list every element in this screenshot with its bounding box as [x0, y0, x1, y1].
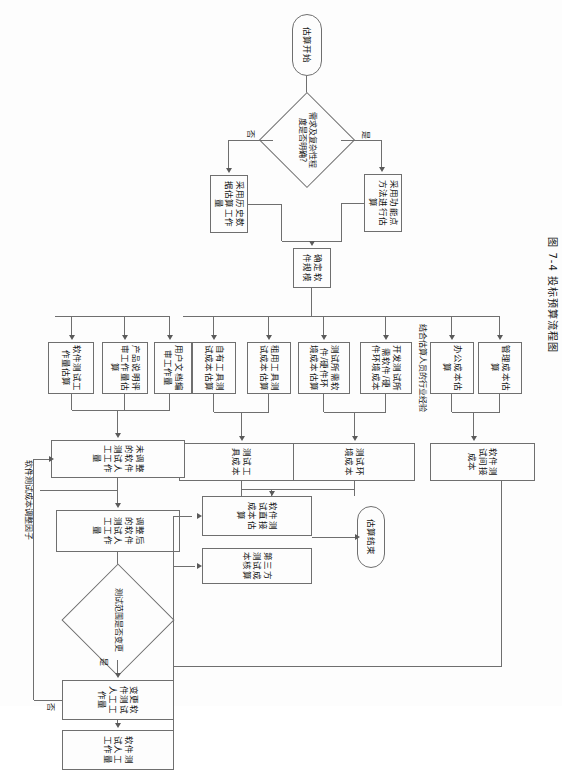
node-own-tool-cost: 自有工具测试成本估算	[192, 342, 236, 394]
edge-indirect-long	[501, 481, 502, 666]
edge-devenv-out	[385, 394, 386, 412]
figure-caption: 图 7-4 投标预算流程图	[547, 237, 562, 353]
edge-change-loop-down	[34, 700, 62, 701]
edge-user-doc-out	[169, 394, 170, 410]
arrowhead-change-effort	[115, 673, 121, 678]
edge-bus-to-env-cost	[323, 316, 324, 336]
arrowhead-unadjusted-effort	[115, 433, 121, 438]
arrowhead-own-tool	[211, 335, 217, 340]
edge-tool-merge-out	[241, 412, 242, 437]
node-management-cost: 管理成本估算	[478, 342, 522, 394]
node-test-design-effort: 软件测试工作量估算	[48, 342, 94, 394]
node-direct-cost: 软件测试直接成本估算	[202, 496, 312, 536]
node-unadjusted-effort: 未调整的软件测试人工工作量	[51, 440, 185, 478]
arrowhead-test-design	[69, 335, 75, 340]
arrowhead-determine-scale	[309, 241, 315, 246]
edge-effort-merge-out	[117, 410, 118, 434]
node-indirect-cost: 软件测试间接成本	[430, 443, 535, 481]
node-decision-scope: 测试范围是否变更	[78, 580, 158, 660]
edge-cost-merge-vertical	[242, 489, 355, 490]
edge-label-no-scope: 否	[46, 703, 57, 711]
edge-effort-merge	[72, 410, 170, 411]
edge-test-design-out	[71, 394, 72, 410]
arrowhead-office	[449, 335, 455, 340]
arrowhead-user-doc	[167, 335, 173, 340]
arrowhead-spec-review	[122, 335, 128, 340]
node-adjusted-effort: 调整后的软件测试人工工作量	[56, 510, 180, 552]
arrowhead-indirect-cost	[471, 436, 477, 441]
edge-bus-to-user-doc	[169, 316, 170, 336]
arrowhead-env-cost	[321, 335, 327, 340]
edge-scope-yes	[117, 660, 118, 674]
arrowhead-direct-cost	[197, 513, 202, 519]
edge-hist-to-scale	[281, 204, 282, 241]
arrowhead-test-env-cost	[352, 436, 358, 441]
bus-vertical-costs	[183, 316, 500, 317]
edge-bus-to-management	[499, 316, 500, 336]
node-test-tool-cost: 测试工具成本	[179, 443, 304, 481]
node-decision-requirements: 需求及复杂性程度是否明确?	[273, 106, 341, 174]
arrowhead-historical	[226, 168, 232, 173]
edge-unadjusted-to-adjusted	[117, 478, 118, 504]
edge-bus-to-rental-tool	[268, 316, 269, 336]
edge-office-out	[451, 394, 452, 412]
edge-manual-to-direct	[174, 516, 192, 517]
arrowhead-third-party	[197, 563, 202, 569]
edge-indirect-merge	[452, 412, 500, 413]
node-office-cost: 办公成本估算	[430, 342, 474, 394]
edge-rental-tool-out	[268, 394, 269, 412]
edge-bus-to-dev-env	[385, 316, 386, 336]
node-user-doc-effort: 用户文档编审工作量	[154, 342, 192, 394]
edge-bus-to-office	[451, 316, 452, 336]
node-start: 估算开始	[292, 14, 322, 76]
edge-adjust-factor-stem	[40, 490, 118, 491]
node-dev-test-env-cost: 开发测试所需软件/硬件环境成本	[360, 342, 412, 394]
edge-yes-up	[341, 140, 382, 141]
edge-spec-review-out	[124, 394, 125, 410]
edge-scale-to-bus	[311, 288, 312, 316]
edge-indirect-down	[174, 666, 502, 667]
edge-own-tool-out	[213, 394, 214, 412]
node-test-env-cost: 测试环境成本	[293, 443, 415, 481]
edge-indirect-to-third	[173, 566, 174, 666]
edge-label-industry-experience: 结合估算人员的行业经验	[418, 324, 429, 412]
node-change-effort: 变更软件测试人工工作量	[62, 680, 174, 720]
edge-fp-to-scale	[341, 203, 342, 241]
node-rental-tool-cost: 租用工具测试成本估算	[247, 342, 291, 394]
node-determine-scale: 确定软件规模	[293, 248, 331, 288]
edge-env-merge	[324, 412, 386, 413]
arrowhead-dev-env	[383, 335, 389, 340]
arrowhead-manual-effort	[115, 723, 121, 728]
edge-label-yes-requirements: 是	[361, 131, 372, 139]
arrowhead-adjusted-effort	[115, 503, 121, 508]
node-product-spec-review-effort: 产品说明评审工作量估算	[102, 342, 148, 394]
arrowhead-direct-cost-in	[269, 491, 275, 496]
arrowhead-function-point	[379, 167, 385, 172]
edge-no-right	[228, 140, 229, 169]
node-end: 估算结束	[357, 506, 385, 568]
node-manual-effort: 软件测试人工工作量	[62, 730, 174, 770]
edge-bus-to-test-design	[71, 316, 72, 336]
edge-hist-up	[248, 204, 282, 205]
edge-bus-to-spec-review	[124, 316, 125, 336]
edge-no-down	[229, 140, 273, 141]
arrowhead-end	[355, 534, 360, 540]
edge-yes-right	[381, 140, 382, 168]
edge-direct-to-end	[312, 537, 357, 538]
decision-requirements-label: 需求及复杂性程度是否明确?	[273, 106, 341, 174]
edge-mgmt-out	[499, 394, 500, 412]
arrowhead-test-tool-cost	[239, 436, 245, 441]
edge-indirect-merge-out	[473, 412, 474, 437]
node-third-party-cost: 第三方测试成本核算	[202, 548, 312, 584]
bus-vertical-effort	[55, 316, 170, 317]
edge-third-party-stem	[174, 566, 195, 567]
edge-scale-to-effort-bus	[311, 288, 312, 289]
arrowhead-management	[497, 335, 503, 340]
node-historical-data: 采用历史数据估算工作量	[210, 175, 248, 233]
edge-bus-to-own-tool	[213, 316, 214, 336]
edge-label-no-requirements: 否	[246, 130, 257, 138]
edge-fp-down	[342, 203, 364, 204]
arrowhead-rental-tool	[266, 335, 272, 340]
